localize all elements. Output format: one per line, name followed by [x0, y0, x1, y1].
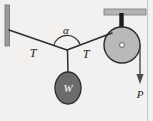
weight-label: W: [63, 82, 73, 94]
applied-force-label: P: [136, 88, 144, 100]
figure-canvas: α T T W P: [0, 0, 153, 121]
rope-weight-segment: [68, 50, 69, 74]
ceiling-bracket: [104, 9, 146, 15]
free-body-diagram: α T T W P: [0, 0, 153, 121]
angle-label: α: [63, 24, 69, 36]
wall-post: [5, 5, 10, 46]
pulley-hub-icon: [120, 43, 125, 48]
